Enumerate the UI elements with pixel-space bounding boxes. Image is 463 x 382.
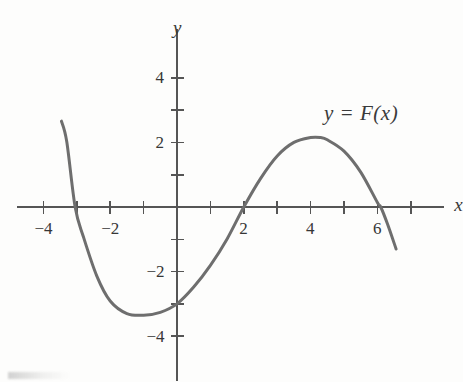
x-tick-label: −4 — [34, 220, 52, 237]
plot-area — [0, 0, 463, 382]
x-axis-label: x — [454, 195, 462, 214]
figure-canvas: y = F(x) x y −4−224642−2−4 — [0, 0, 463, 382]
x-tick-label: 2 — [239, 220, 248, 237]
x-tick-label: 6 — [373, 220, 382, 237]
page-edge-artifact — [8, 372, 70, 379]
y-tick-label: 2 — [156, 134, 165, 151]
x-tick-label: −2 — [101, 220, 119, 237]
curve-equation-label: y = F(x) — [324, 103, 398, 124]
x-tick-label: 4 — [306, 220, 315, 237]
y-tick-label: −2 — [147, 263, 165, 280]
y-tick-label: −4 — [147, 328, 165, 345]
y-axis-label: y — [173, 18, 181, 37]
y-tick-label: 4 — [156, 69, 165, 86]
